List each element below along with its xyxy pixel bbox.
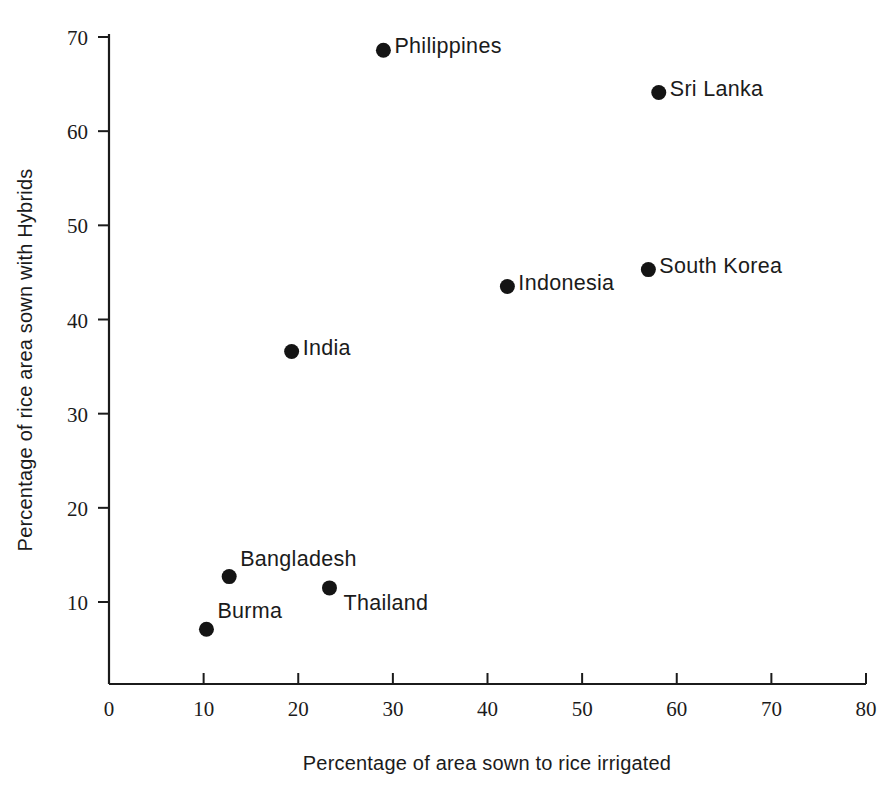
point-label: Bangladesh (240, 547, 357, 571)
point-marker (641, 262, 656, 277)
data-point: Sri Lanka (651, 77, 763, 101)
point-marker (199, 622, 214, 637)
point-label: Philippines (394, 34, 501, 58)
y-tick-label: 50 (67, 214, 88, 238)
y-tick-label: 40 (67, 309, 88, 333)
data-point: Indonesia (500, 271, 614, 295)
data-point: Bangladesh (222, 547, 357, 585)
x-tick-label: 30 (382, 697, 403, 721)
data-point: Burma (199, 599, 282, 637)
point-label: Sri Lanka (670, 77, 764, 101)
x-tick-label: 20 (288, 697, 309, 721)
point-marker (376, 43, 391, 58)
x-tick-label: 80 (856, 697, 877, 721)
point-label: India (303, 336, 351, 360)
y-axis-title: Percentage of rice area sown with Hybrid… (14, 169, 36, 552)
point-marker (500, 279, 515, 294)
data-point: South Korea (641, 254, 782, 278)
x-tick-label: 50 (572, 697, 593, 721)
y-axis-ticks: 10203040506070 (67, 26, 109, 615)
y-tick-label: 70 (67, 26, 88, 50)
data-points-group: PhilippinesSri LankaSouth KoreaIndonesia… (199, 34, 782, 637)
point-label: Indonesia (518, 271, 614, 295)
point-label: South Korea (659, 254, 782, 278)
data-point: Thailand (322, 580, 428, 615)
x-axis-title: Percentage of area sown to rice irrigate… (303, 752, 671, 774)
x-tick-label: 10 (193, 697, 214, 721)
x-tick-label: 60 (666, 697, 687, 721)
point-label: Burma (217, 599, 282, 623)
axes-group (109, 34, 866, 684)
y-tick-label: 20 (67, 497, 88, 521)
chart-canvas: 10203040506070 01020304050607080 Philipp… (0, 0, 886, 795)
data-point: Philippines (376, 34, 502, 58)
x-axis-ticks: 01020304050607080 (104, 673, 877, 721)
point-marker (284, 344, 299, 359)
point-marker (651, 85, 666, 100)
scatter-plot-figure: 10203040506070 01020304050607080 Philipp… (0, 0, 886, 795)
point-marker (222, 569, 237, 584)
x-tick-label: 70 (761, 697, 782, 721)
x-tick-label: 40 (477, 697, 498, 721)
point-marker (322, 580, 337, 595)
y-tick-label: 30 (67, 403, 88, 427)
y-tick-label: 10 (67, 591, 88, 615)
data-point: India (284, 336, 351, 360)
y-tick-label: 60 (67, 120, 88, 144)
point-label: Thailand (343, 591, 428, 615)
x-tick-label: 0 (104, 697, 115, 721)
